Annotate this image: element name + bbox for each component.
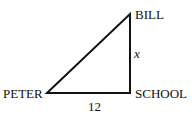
- vertex-label-school: SCHOOL: [135, 86, 187, 101]
- side-label-12: 12: [88, 99, 101, 114]
- vertex-label-peter: PETER: [3, 86, 43, 101]
- right-triangle: [47, 14, 130, 93]
- vertex-label-bill: BILL: [135, 7, 164, 22]
- side-label-x: x: [133, 46, 140, 61]
- triangle-diagram: BILL x PETER SCHOOL 12: [0, 0, 192, 114]
